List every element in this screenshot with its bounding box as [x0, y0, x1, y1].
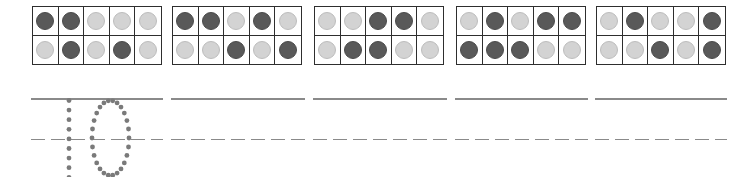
- traced-number-10: [0, 0, 753, 177]
- dotted-zero-icon: [90, 98, 132, 177]
- dotted-one-icon: [67, 98, 72, 177]
